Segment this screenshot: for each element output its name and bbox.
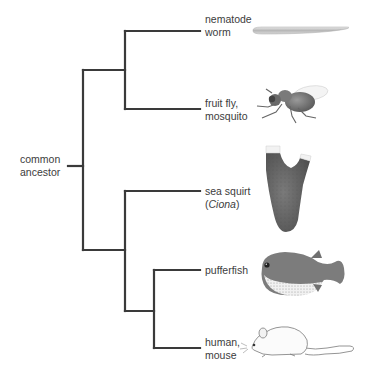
fruitfly-line-1: fruit fly, bbox=[205, 97, 248, 110]
pufferfish-image bbox=[262, 250, 345, 296]
seasquirt-line-1: sea squirt bbox=[205, 185, 251, 198]
ciona-italic: Ciona bbox=[209, 198, 236, 210]
leaf-label-seasquirt: sea squirt (Ciona) bbox=[205, 185, 251, 211]
humanmouse-line-1: human, bbox=[205, 336, 240, 349]
leaf-label-nematode: nematode worm bbox=[205, 13, 252, 39]
paren-close: ) bbox=[236, 198, 240, 210]
ancestor-line-2: ancestor bbox=[20, 166, 60, 179]
leaf-label-pufferfish: pufferfish bbox=[205, 264, 248, 277]
seasquirt-line-2: (Ciona) bbox=[205, 198, 251, 211]
pufferfish-line-1: pufferfish bbox=[205, 264, 248, 277]
humanmouse-line-2: mouse bbox=[205, 349, 240, 362]
fruit-fly-image bbox=[257, 84, 329, 123]
nematode-line-2: worm bbox=[205, 26, 252, 39]
leaf-label-humanmouse: human, mouse bbox=[205, 336, 240, 362]
ancestor-line-1: common bbox=[20, 153, 60, 166]
phylogenetic-tree bbox=[0, 0, 367, 390]
common-ancestor-label: common ancestor bbox=[20, 153, 60, 179]
leaf-label-fruitfly: fruit fly, mosquito bbox=[205, 97, 248, 123]
sea-squirt-image bbox=[266, 146, 311, 232]
mouse-image bbox=[240, 327, 354, 357]
tree-branches bbox=[68, 31, 200, 348]
nematode-line-1: nematode bbox=[205, 13, 252, 26]
nematode-worm-image bbox=[253, 27, 349, 34]
fruitfly-line-2: mosquito bbox=[205, 110, 248, 123]
